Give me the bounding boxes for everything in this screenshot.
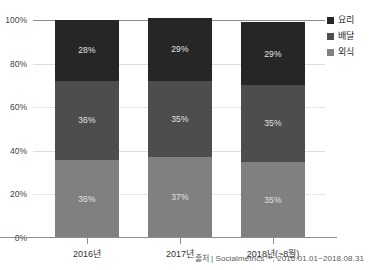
bar-segment[interactable]: 35% — [241, 85, 305, 161]
plot-area: 100%80%60%40%20%0% 28%36%36%29%35%37%29%… — [33, 20, 325, 238]
x-tick-mark — [87, 238, 88, 244]
bar-segment[interactable]: 35% — [241, 162, 305, 238]
bar-3[interactable]: 29%35%35% — [241, 22, 305, 238]
y-tick-label: 40% — [10, 147, 27, 156]
legend-item[interactable]: 배달 — [327, 29, 370, 43]
x-axis-line — [0, 237, 337, 238]
y-tick-label: 60% — [10, 103, 27, 112]
x-tick-mark — [273, 238, 274, 244]
legend-swatch-icon — [327, 33, 334, 40]
x-tick-label: 2017년 — [166, 250, 194, 259]
bar-segment-label: 29% — [171, 45, 189, 54]
bar-segment-label: 28% — [78, 46, 96, 55]
stacked-bar-chart: 100%80%60%40%20%0% 28%36%36%29%35%37%29%… — [0, 0, 370, 270]
bar-segment[interactable]: 29% — [148, 18, 212, 81]
legend-item[interactable]: 요리 — [327, 13, 370, 27]
bar-segment[interactable]: 29% — [241, 22, 305, 85]
bar-segment[interactable]: 36% — [55, 81, 119, 159]
bar-segment-label: 35% — [264, 119, 282, 128]
legend-label: 외식 — [338, 48, 354, 57]
legend-swatch-icon — [327, 17, 334, 24]
y-tick-label: 0% — [15, 234, 27, 243]
clipped-title-text — [4, 0, 244, 5]
bar-segment-label: 35% — [171, 115, 189, 124]
legend-label: 배달 — [338, 32, 354, 41]
bar-segment-label: 36% — [78, 195, 96, 204]
y-tick-label: 100% — [5, 16, 27, 25]
legend-swatch-icon — [327, 49, 334, 56]
bar-segment[interactable]: 36% — [55, 160, 119, 238]
legend-item[interactable]: 외식 — [327, 45, 370, 59]
y-tick-label: 20% — [10, 190, 27, 199]
y-tick-label: 80% — [10, 60, 27, 69]
bar-1[interactable]: 28%36%36% — [55, 20, 119, 238]
x-tick-mark — [180, 238, 181, 244]
bar-segment-label: 36% — [78, 116, 96, 125]
x-tick-label: 2016년 — [73, 250, 101, 259]
chart-legend: 요리배달외식 — [327, 13, 370, 61]
bar-segment-label: 37% — [171, 193, 189, 202]
legend-label: 요리 — [338, 16, 354, 25]
bar-segment[interactable]: 28% — [55, 20, 119, 81]
bar-segment-label: 35% — [264, 196, 282, 205]
bar-segment[interactable]: 37% — [148, 157, 212, 238]
bar-segment-label: 29% — [264, 50, 282, 59]
bar-2[interactable]: 29%35%37% — [148, 18, 212, 238]
bar-segment[interactable]: 35% — [148, 81, 212, 157]
source-note: 출처 | Socialmetrics™, 2016.01.01~2018.08.… — [195, 254, 365, 264]
